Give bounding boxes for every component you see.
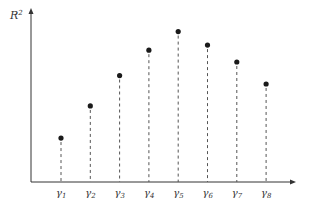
data-point — [205, 43, 210, 48]
x-tick-label: γ3 — [115, 187, 126, 200]
x-axis-arrow-icon — [290, 180, 296, 185]
y-axis-arrow-icon — [29, 8, 34, 14]
data-point — [58, 135, 63, 140]
y-axis-label: R2 — [9, 9, 23, 22]
data-point — [146, 48, 151, 53]
x-tick-label: γ5 — [173, 187, 184, 200]
axes — [29, 8, 297, 185]
data-point — [176, 29, 181, 34]
x-tick-label: γ7 — [232, 187, 243, 200]
x-tick-label: γ4 — [144, 187, 154, 200]
data-point — [117, 73, 122, 78]
x-tick-label: γ1 — [56, 187, 66, 200]
data-point — [264, 81, 269, 86]
x-tick-label: γ6 — [203, 187, 214, 200]
data-series — [58, 29, 268, 182]
data-point — [88, 103, 93, 108]
x-tick-label: γ8 — [261, 187, 272, 200]
r-squared-lollipop-chart: R2 γ1γ2γ3γ4γ5γ6γ7γ8 — [0, 0, 314, 206]
x-tick-labels: γ1γ2γ3γ4γ5γ6γ7γ8 — [56, 187, 272, 200]
data-point — [234, 59, 239, 64]
x-tick-label: γ2 — [85, 187, 96, 200]
